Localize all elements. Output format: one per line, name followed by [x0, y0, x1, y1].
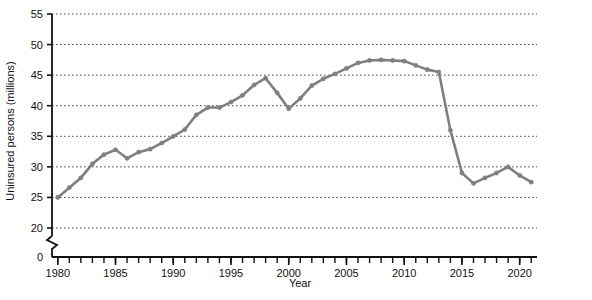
data-point [102, 153, 106, 157]
y-tick-label: 25 [31, 191, 43, 203]
data-point [79, 176, 83, 180]
data-point [90, 162, 94, 166]
x-axis-title: Year [289, 277, 312, 289]
data-point [518, 173, 522, 177]
y-tick-label-zero: 0 [37, 251, 43, 263]
data-point [125, 156, 129, 160]
data-point [56, 195, 60, 199]
y-tick-label: 40 [31, 100, 43, 112]
data-point [344, 66, 348, 70]
data-point [206, 105, 210, 109]
data-point [367, 58, 371, 62]
data-point [391, 58, 395, 62]
y-axis-break-icon [47, 236, 57, 249]
x-tick-label: 2005 [334, 267, 358, 279]
data-point [310, 83, 314, 87]
y-tick-label: 35 [31, 130, 43, 142]
chart-canvas: 2025303540455055019801985199019952000200… [0, 0, 592, 300]
x-tick-label: 1990 [161, 267, 185, 279]
data-point [402, 59, 406, 63]
data-point [275, 91, 279, 95]
y-tick-label: 50 [31, 39, 43, 51]
y-axis-title: Uninsured persons (millions) [4, 61, 16, 200]
line-chart: 2025303540455055019801985199019952000200… [0, 0, 592, 300]
data-line [58, 60, 531, 198]
data-point [171, 134, 175, 138]
data-point [506, 165, 510, 169]
data-point [483, 176, 487, 180]
data-point [437, 70, 441, 74]
data-point [240, 93, 244, 97]
data-point [448, 128, 452, 132]
y-tick-label: 30 [31, 161, 43, 173]
data-point [379, 58, 383, 62]
data-point [529, 180, 533, 184]
data-point [252, 83, 256, 87]
x-tick-label: 2010 [392, 267, 416, 279]
data-point [160, 141, 164, 145]
y-tick-label: 55 [31, 8, 43, 20]
data-point [113, 148, 117, 152]
data-point [298, 96, 302, 100]
x-tick-label: 1980 [46, 267, 70, 279]
data-point [67, 186, 71, 190]
x-tick-label: 2020 [507, 267, 531, 279]
data-point [194, 113, 198, 117]
x-tick-label: 1985 [103, 267, 127, 279]
data-point [137, 150, 141, 154]
data-point [414, 63, 418, 67]
x-tick-label: 2015 [450, 267, 474, 279]
data-point [425, 68, 429, 72]
data-point [229, 100, 233, 104]
data-point [287, 107, 291, 111]
data-point [471, 181, 475, 185]
data-point [460, 171, 464, 175]
data-point [217, 105, 221, 109]
data-point [333, 72, 337, 76]
y-tick-label: 20 [31, 222, 43, 234]
data-point [264, 76, 268, 80]
data-point [356, 61, 360, 65]
data-point [148, 147, 152, 151]
data-point [321, 77, 325, 81]
y-tick-label: 45 [31, 69, 43, 81]
data-point [494, 171, 498, 175]
x-tick-label: 1995 [219, 267, 243, 279]
data-point [183, 127, 187, 131]
